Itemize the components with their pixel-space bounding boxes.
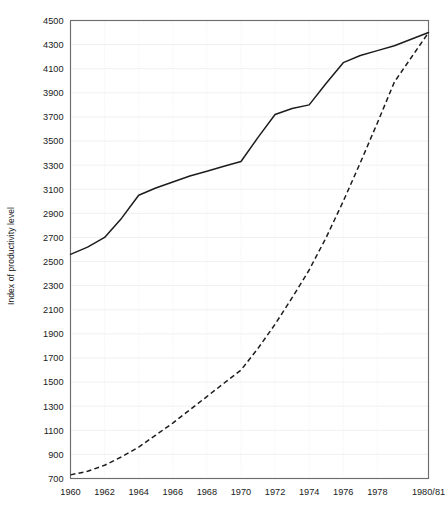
x-tick-label: 1980/81 — [412, 487, 445, 497]
x-tick-label: 1974 — [299, 487, 319, 497]
y-tick-label: 4500 — [43, 16, 63, 26]
y-tick-label: 3500 — [43, 136, 63, 146]
series-line-solid — [71, 33, 429, 255]
y-tick-label: 3900 — [43, 88, 63, 98]
x-tick-label: 1960 — [60, 487, 80, 497]
y-tick-label: 1300 — [43, 402, 63, 412]
y-tick-label: 4300 — [43, 40, 63, 50]
x-tick-label: 1968 — [197, 487, 217, 497]
chart-svg: 7009001100130015001700190021002300250027… — [0, 0, 447, 512]
y-tick-label: 3700 — [43, 112, 63, 122]
x-tick-label: 1972 — [265, 487, 285, 497]
y-tick-label: 2100 — [43, 305, 63, 315]
y-tick-label: 2900 — [43, 209, 63, 219]
y-tick-label: 2300 — [43, 281, 63, 291]
y-tick-label: 700 — [48, 474, 63, 484]
x-tick-label: 1962 — [94, 487, 114, 497]
y-tick-label: 1700 — [43, 353, 63, 363]
y-tick-label: 900 — [48, 450, 63, 460]
y-tick-label: 1500 — [43, 377, 63, 387]
plot-area: 7009001100130015001700190021002300250027… — [0, 0, 447, 512]
productivity-chart: Index of productivity level 700900110013… — [0, 0, 447, 512]
series-line-dashed — [71, 33, 429, 475]
y-tick-label: 3300 — [43, 161, 63, 171]
y-tick-label: 2500 — [43, 257, 63, 267]
x-tick-label: 1978 — [367, 487, 387, 497]
axis-border — [71, 21, 429, 479]
y-tick-label: 1900 — [43, 329, 63, 339]
x-tick-label: 1966 — [163, 487, 183, 497]
y-tick-label: 1100 — [44, 426, 64, 436]
y-tick-label: 2700 — [43, 233, 63, 243]
x-tick-label: 1964 — [128, 487, 148, 497]
y-tick-label: 4100 — [43, 64, 63, 74]
x-tick-label: 1976 — [333, 487, 353, 497]
x-tick-label: 1970 — [231, 487, 251, 497]
y-tick-label: 3100 — [43, 185, 63, 195]
